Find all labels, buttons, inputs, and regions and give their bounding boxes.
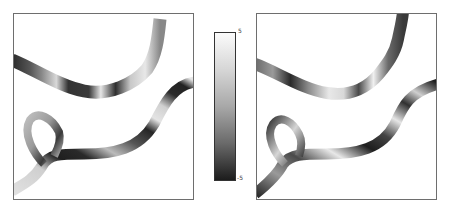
right-vessel-image: [257, 14, 437, 200]
colorbar-min-label: -5: [237, 175, 243, 181]
colorbar: [214, 32, 236, 181]
left-vessel-image: [14, 14, 194, 200]
colorbar-max-label: 5: [238, 28, 242, 34]
left-vessel-panel: [13, 13, 194, 200]
right-vessel-panel: [256, 13, 437, 200]
